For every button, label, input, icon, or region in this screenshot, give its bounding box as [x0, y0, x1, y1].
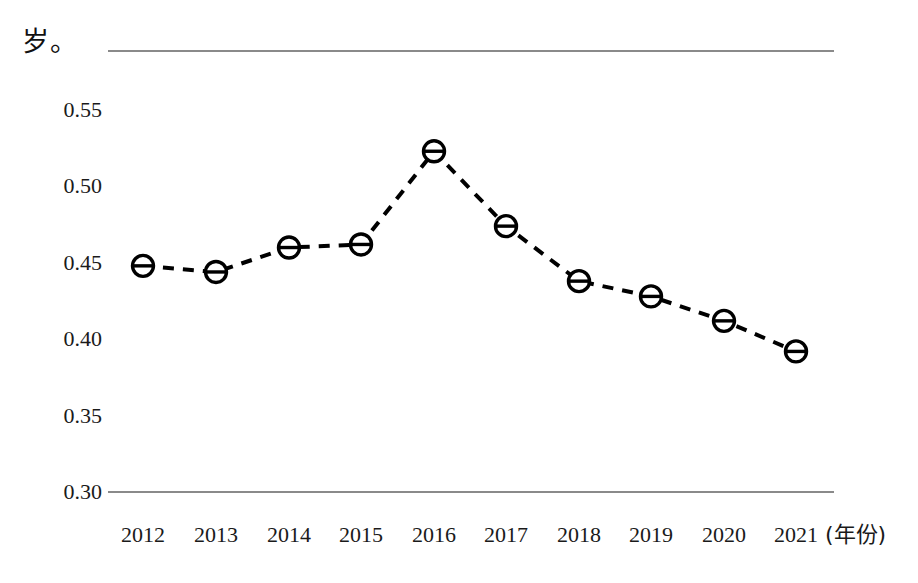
series-line — [143, 151, 796, 351]
series-markers — [133, 141, 807, 362]
chart-figure: 岁。 0.55 0.50 0.45 0.40 0.35 0.30 2012 20… — [0, 0, 918, 583]
chart-plot-area — [0, 0, 918, 583]
